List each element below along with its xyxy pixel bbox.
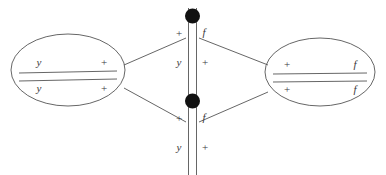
bottom-node-upper-right-label: f [202,111,207,123]
bottom-node-dot [185,94,200,109]
left-ellipse-group: y + y + [11,34,125,106]
bottom-node-upper-left-label: + [176,112,182,124]
top-node-lower-right-label: + [202,56,208,68]
left-ellipse-outline [11,34,125,106]
right-row1-right-label: f [353,58,358,70]
right-ellipse-outline [265,38,375,106]
bottom-node-lower-left-label: y [176,141,182,153]
top-node-upper-left-label: + [176,27,182,39]
right-row2-right-label: f [353,83,358,95]
top-node-lower-left-label: y [176,56,182,68]
connector-edges [124,38,268,122]
left-row1-left-label: y [36,56,42,68]
diagram-svg: y + y + + f + f + f y + + f y [0,0,386,175]
left-ellipse-divider-upper [19,71,117,73]
edge-bottom-node-to-right [199,92,268,122]
left-row2-left-label: y [36,82,42,94]
top-node-dot [185,9,200,24]
right-ellipse-group: + f + f [265,38,375,106]
center-channel-group: + f y + + f y + [176,8,209,175]
right-row1-left-label: + [284,58,290,70]
right-row2-left-label: + [284,83,290,95]
left-row2-right-label: + [101,82,107,94]
right-ellipse-divider-upper [273,73,367,74]
left-row1-right-label: + [101,56,107,68]
top-node-upper-right-label: f [202,26,207,38]
bottom-node-lower-right-label: + [202,141,208,153]
diagram-canvas: y + y + + f + f + f y + + f y [0,0,386,175]
edge-top-node-to-right [199,38,268,65]
